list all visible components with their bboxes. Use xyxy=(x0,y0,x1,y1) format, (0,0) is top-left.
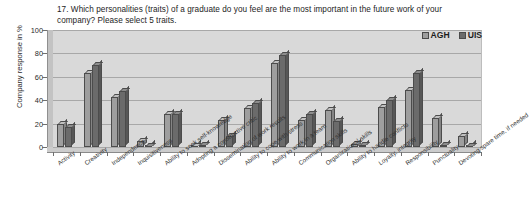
legend-swatch-icon xyxy=(422,32,429,39)
legend-item-agh: AGH xyxy=(422,30,450,40)
x-axis-category-label: Creativity xyxy=(83,145,108,166)
legend-swatch-icon xyxy=(459,32,466,39)
legend-label-uis: UIS xyxy=(468,30,482,40)
legend-item-uis: UIS xyxy=(459,30,482,40)
x-axis-category-label: Activity xyxy=(56,149,76,166)
legend-label-agh: AGH xyxy=(431,30,450,40)
chart-legend: AGH UIS xyxy=(422,30,482,40)
x-axis-category-label: Communication skills xyxy=(297,126,348,166)
x-axis-category-label: Devoting spare time, if needed xyxy=(457,111,530,166)
x-axis-category-label: Organizational skills xyxy=(323,128,372,166)
